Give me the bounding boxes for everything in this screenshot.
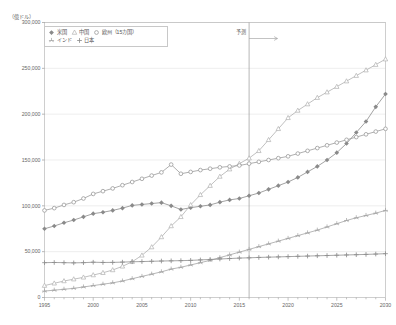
x-axis-tick-label: 2015: [227, 302, 251, 308]
data-point-marker: [130, 180, 134, 184]
x-axis-tick-label: 1995: [33, 302, 57, 308]
legend-marker-icon: [76, 37, 83, 44]
data-point-marker: [228, 165, 232, 169]
x-axis-tick-label: 2000: [81, 302, 105, 308]
data-point-marker: [121, 183, 125, 187]
legend-item-label: 米国: [57, 29, 67, 36]
data-point-marker: [179, 172, 183, 176]
data-point-marker: [247, 162, 251, 166]
legend-item-japan[interactable]: 日本: [76, 37, 95, 44]
data-point-marker: [208, 167, 212, 171]
y-axis-tick-label: 200,000: [7, 111, 41, 117]
data-point-marker: [43, 209, 47, 213]
data-point-marker: [345, 138, 349, 142]
x-axis-tick-label: 2030: [374, 302, 396, 308]
data-point-marker: [354, 135, 358, 139]
data-point-marker: [286, 154, 290, 158]
data-point-marker: [315, 146, 319, 150]
data-point-marker: [374, 130, 378, 134]
data-point-marker: [306, 149, 310, 153]
data-point-marker: [111, 187, 115, 191]
data-point-marker: [72, 200, 76, 204]
data-point-marker: [82, 197, 86, 201]
data-point-marker: [364, 132, 368, 136]
data-point-marker: [296, 152, 300, 156]
chart-legend: 米国中国欧州（15カ国） インド日本: [44, 26, 168, 47]
legend-item-china[interactable]: 中国: [71, 29, 90, 36]
data-point-marker: [62, 203, 66, 207]
legend-item-label: 日本: [84, 37, 94, 44]
legend-item-label: 欧州（15カ国）: [102, 29, 138, 36]
data-point-marker: [276, 156, 280, 160]
y-axis-tick-label: 150,000: [7, 157, 41, 163]
data-point-marker: [218, 165, 222, 169]
legend-marker-icon: [48, 37, 55, 44]
legend-row: インド日本: [48, 37, 165, 45]
legend-marker-icon: [48, 29, 55, 36]
data-point-marker: [384, 127, 388, 131]
legend-item-europe[interactable]: 欧州（15カ国）: [93, 29, 137, 36]
x-axis-tick-label: 2010: [179, 302, 203, 308]
data-point-marker: [267, 158, 271, 162]
data-point-marker: [52, 206, 56, 210]
legend-marker-icon: [71, 29, 78, 36]
x-axis-tick-label: 2005: [130, 302, 154, 308]
y-axis-tick-label: 250,000: [7, 65, 41, 71]
data-point-marker: [325, 143, 329, 147]
y-axis-tick-label: 50,000: [7, 248, 41, 254]
legend-row: 米国中国欧州（15カ国）: [48, 29, 165, 37]
y-axis-tick-label: 100,000: [7, 203, 41, 209]
legend-item-label: インド: [57, 37, 72, 44]
legend-marker-icon: [93, 29, 100, 36]
data-point-marker: [257, 160, 261, 164]
x-axis-tick-label: 2020: [276, 302, 300, 308]
data-point-marker: [189, 170, 193, 174]
forecast-annotation-label: 予測: [236, 28, 246, 35]
data-point-marker: [335, 141, 339, 145]
y-axis-tick-label: 300,000: [7, 19, 41, 25]
data-point-marker: [238, 164, 242, 168]
y-axis-tick-label: 0: [7, 294, 41, 300]
data-point-marker: [199, 168, 203, 172]
data-point-marker: [140, 177, 144, 181]
legend-item-us[interactable]: 米国: [48, 29, 67, 36]
legend-item-india[interactable]: インド: [48, 37, 72, 44]
data-point-marker: [169, 163, 173, 167]
data-point-marker: [91, 192, 95, 196]
legend-item-label: 中国: [79, 29, 89, 36]
data-point-marker: [160, 171, 164, 175]
x-axis-tick-label: 2025: [325, 302, 349, 308]
data-point-marker: [101, 189, 105, 193]
data-point-marker: [150, 174, 154, 178]
